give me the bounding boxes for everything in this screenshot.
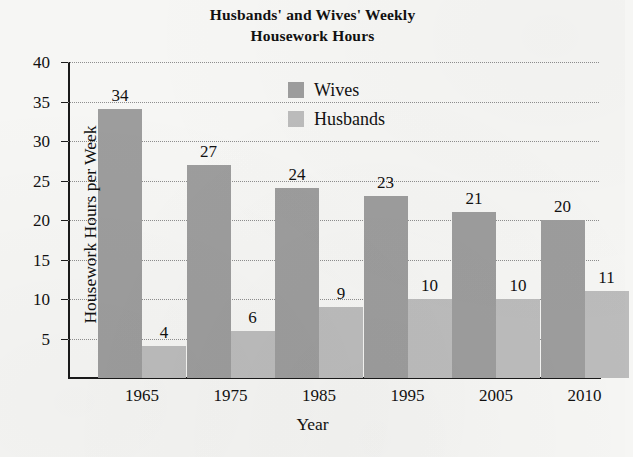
x-tick-label-1985: 1985 [284,386,354,406]
value-label-husbands-2010: 11 [577,269,633,286]
value-label-wives-2010: 20 [533,198,593,215]
y-tick-label-5: 5 [16,331,50,348]
value-label-wives-2005: 21 [444,190,504,207]
legend-label-husbands: Husbands [314,107,385,131]
value-label-husbands-2005: 10 [488,277,548,294]
x-tick-label-1975: 1975 [196,386,266,406]
value-label-wives-1985: 24 [267,166,327,183]
legend-swatch-wives-icon [288,82,304,98]
x-tick-label-2005: 2005 [461,386,531,406]
value-label-wives-1975: 27 [179,143,239,160]
y-tick-label-40: 40 [16,54,50,71]
value-label-husbands-1965: 4 [134,324,194,341]
x-axis-title: Year [0,414,625,435]
value-label-husbands-1995: 10 [400,277,460,294]
value-label-husbands-1975: 6 [223,309,283,326]
y-tick-label-20: 20 [16,212,50,229]
y-tick-label-10: 10 [16,291,50,308]
y-tick-label-30: 30 [16,133,50,150]
y-tick-label-25: 25 [16,173,50,190]
value-label-wives-1965: 34 [90,87,150,104]
legend-swatch-husbands-icon [288,111,304,127]
y-tick-label-15: 15 [16,252,50,269]
y-tick-label-35: 35 [16,94,50,111]
x-tick-label-1965: 1965 [107,386,177,406]
value-label-wives-1995: 23 [356,174,416,191]
x-tick-label-1995: 1995 [373,386,443,406]
legend-label-wives: Wives [314,78,359,102]
x-tick-label-2010: 2010 [550,386,620,406]
value-label-husbands-1985: 9 [311,285,371,302]
